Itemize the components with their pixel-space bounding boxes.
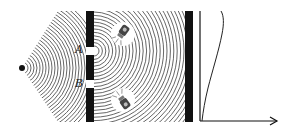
slit-a-label: A <box>75 44 83 55</box>
diffracted-wavefronts <box>0 0 252 135</box>
barrier-1-middle <box>86 55 94 80</box>
intensity-curve <box>202 11 223 121</box>
barrier-2 <box>185 11 193 122</box>
slit-b-label: B <box>75 78 83 89</box>
barrier-1-top <box>86 11 94 47</box>
incident-wavefronts <box>0 0 100 135</box>
double-slit-diagram <box>0 0 293 135</box>
point-source <box>19 65 25 71</box>
barrier-1-bottom <box>86 88 94 122</box>
